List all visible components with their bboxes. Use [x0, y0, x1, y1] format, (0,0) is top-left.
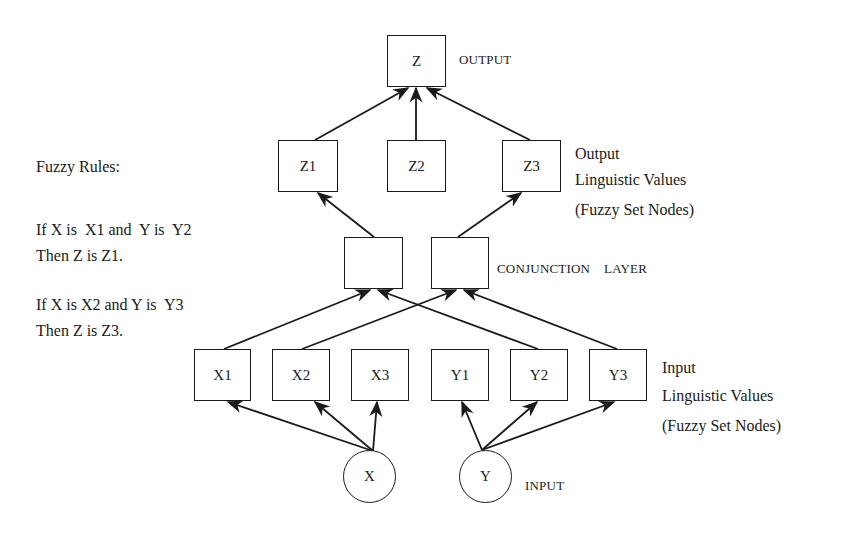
output-value-node-z1: Z1 — [278, 140, 338, 192]
input-value-node-y1: Y1 — [431, 349, 489, 401]
caption-line: Output — [575, 142, 694, 166]
edge-x-x3 — [373, 402, 377, 451]
node-label: Y3 — [609, 367, 627, 384]
node-label: Y1 — [451, 367, 469, 384]
rule-if: If X is X2 and Y is Y3 — [36, 293, 184, 317]
edge-conj2-z3 — [458, 193, 521, 237]
edge-y3-conj2 — [464, 290, 617, 349]
edge-z1-z — [315, 88, 408, 140]
conjunction-caption: CONJUNCTION LAYER — [497, 261, 647, 277]
output-caption: OUTPUT — [459, 52, 511, 68]
input-value-node-x1: X1 — [194, 349, 251, 401]
output-value-node-z2: Z2 — [387, 140, 446, 192]
node-label: X2 — [292, 367, 310, 384]
node-label: X1 — [213, 367, 231, 384]
edge-x-x1 — [228, 402, 373, 451]
caption-line: Linguistic Values — [662, 384, 781, 408]
output-node-z: Z — [387, 35, 446, 87]
input-node-y: Y — [459, 450, 512, 503]
rule-then: Then Z is Z3. — [36, 319, 184, 343]
node-label: Y — [480, 468, 491, 485]
rule-then: Then Z is Z1. — [36, 244, 192, 268]
edge-z3-z — [427, 88, 530, 140]
node-label: Z3 — [523, 158, 540, 175]
fuzzy-rules-title: Fuzzy Rules: — [36, 155, 120, 179]
input-value-node-y3: Y3 — [589, 349, 647, 401]
conjunction-node-1 — [344, 237, 403, 289]
caption-line: (Fuzzy Set Nodes) — [575, 198, 694, 222]
input-value-node-x2: X2 — [272, 349, 330, 401]
node-label: Z2 — [408, 158, 425, 175]
input-value-node-x3: X3 — [351, 349, 409, 401]
edge-y-y1 — [462, 402, 482, 450]
edge-y-y3 — [482, 402, 614, 450]
caption-line: Input — [662, 356, 781, 380]
output-values-caption: Output Linguistic Values (Fuzzy Set Node… — [575, 142, 694, 222]
edge-conj1-z1 — [318, 193, 374, 237]
edge-x-x2 — [315, 402, 373, 451]
fuzzy-rule-1: If X is X1 and Y is Y2 Then Z is Z1. — [36, 218, 192, 268]
caption-line: (Fuzzy Set Nodes) — [662, 414, 781, 438]
output-value-node-z3: Z3 — [502, 140, 561, 192]
node-label: Z1 — [300, 158, 317, 175]
input-value-node-y2: Y2 — [510, 349, 568, 401]
node-label: Y2 — [530, 367, 548, 384]
node-label: Z — [412, 53, 421, 70]
node-label: X — [364, 468, 375, 485]
input-node-x: X — [343, 450, 396, 503]
rule-if: If X is X1 and Y is Y2 — [36, 218, 192, 242]
input-values-caption: Input Linguistic Values (Fuzzy Set Nodes… — [662, 356, 781, 438]
edge-y-y2 — [482, 402, 537, 450]
edge-x2-conj2 — [302, 290, 456, 349]
conjunction-node-2 — [431, 237, 489, 289]
edge-x1-conj1 — [224, 290, 370, 349]
fuzzy-rule-2: If X is X2 and Y is Y3 Then Z is Z3. — [36, 293, 184, 343]
caption-line: Linguistic Values — [575, 168, 694, 192]
node-label: X3 — [371, 367, 389, 384]
edge-y2-conj1 — [378, 290, 538, 349]
input-caption: INPUT — [525, 478, 564, 494]
